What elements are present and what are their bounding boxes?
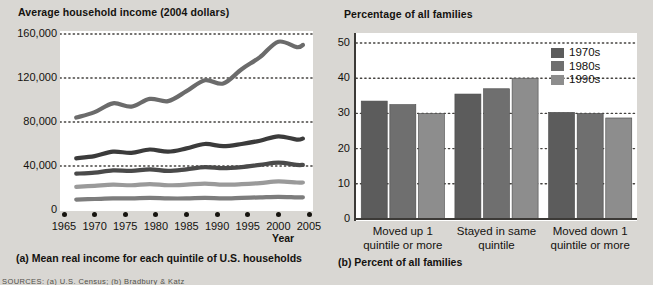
legend-item-1980s[interactable]: 1980s (551, 60, 600, 74)
panel-a-y-tick: 160,000 (17, 27, 57, 39)
panel-a-line-chart: Average household income (2004 dollars) … (0, 0, 330, 285)
panel-a-x-tick: 1965 (51, 220, 77, 232)
panel-a-x-tick: 1980 (143, 220, 169, 232)
panel-a-x-tick: 1985 (174, 220, 200, 232)
panel-a-caption: (a) Mean real income for each quintile o… (16, 252, 302, 264)
panel-b-y-tick: 20 (332, 142, 350, 154)
panel-a-x-tick-dot (276, 212, 281, 217)
panel-a-x-tick-dot (307, 212, 312, 217)
legend-swatch-icon (551, 75, 564, 85)
panel-a-x-tick: 1970 (82, 220, 108, 232)
panel-a-x-tick-dot (184, 212, 189, 217)
legend-swatch-icon (551, 61, 564, 71)
source-text: SOURCES: (a) U.S. Census; (b) Bradbury &… (2, 277, 185, 285)
panel-a-x-tick-dot (92, 212, 97, 217)
panel-a-x-tick: 1975 (112, 220, 138, 232)
panel-a-svg (60, 31, 313, 211)
legend-label: 1980s (569, 60, 600, 74)
legend-label: 1970s (569, 46, 600, 60)
panel-b-caption: (b) Percent of all families (338, 256, 462, 268)
panel-b-y-tick: 30 (332, 106, 350, 118)
legend-swatch-icon (551, 48, 564, 58)
panel-a-x-tick-dot (245, 212, 250, 217)
panel-b-plot-area: 1970s1980s1990s (356, 33, 637, 221)
panel-b-category-label-line: Moved down 1 (530, 225, 650, 239)
panel-a-y-tick: 40,000 (23, 159, 57, 171)
panel-a-x-tick-dot (215, 212, 220, 217)
figure-container: Average household income (2004 dollars) … (0, 0, 653, 285)
panel-b-y-tick: 40 (332, 71, 350, 83)
panel-a-x-tick-dot (153, 212, 158, 217)
panel-b-y-tick: 0 (332, 212, 350, 224)
panel-a-x-tick-dot (123, 212, 128, 217)
panel-b-y-tick: 50 (332, 36, 350, 48)
panel-b-title: Percentage of all families (344, 8, 473, 20)
panel-b-category-label-line: quintile or more (530, 239, 650, 253)
panel-a-x-tick: 1990 (204, 220, 230, 232)
panel-a-y-tick: 80,000 (23, 115, 57, 127)
panel-b-y-axis-spine (354, 33, 356, 221)
panel-b-legend: 1970s1980s1990s (551, 46, 600, 87)
panel-a-title: Average household income (2004 dollars) (18, 6, 229, 18)
source-note: SOURCES: (a) U.S. Census; (b) Bradbury &… (2, 276, 185, 285)
legend-label: 1990s (569, 73, 600, 87)
panel-a-y-tick: 120,000 (17, 71, 57, 83)
panel-a-x-tick: 1995 (235, 220, 261, 232)
panel-a-y-tick: 0 (51, 203, 57, 215)
panel-a-x-tick-dot (62, 212, 67, 217)
panel-a-x-axis-name: Year (272, 232, 294, 244)
panel-b-bar-chart: Percentage of all families 1970s1980s199… (330, 0, 653, 285)
panel-a-plot-area (60, 31, 313, 211)
panel-b-y-tick: 10 (332, 177, 350, 189)
panel-a-x-tick: 2005 (296, 220, 322, 232)
legend-item-1990s[interactable]: 1990s (551, 73, 600, 87)
panel-a-x-tick: 2000 (265, 220, 291, 232)
legend-item-1970s[interactable]: 1970s (551, 46, 600, 60)
panel-b-category-label: Moved down 1quintile or more (530, 225, 650, 252)
